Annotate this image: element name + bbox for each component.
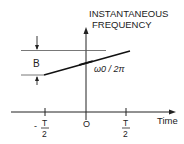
y-axis-label-line2: FREQUENCY	[92, 19, 152, 30]
tick-right-numerator: T	[123, 118, 128, 128]
arrow-down-icon	[35, 45, 39, 50]
bandwidth-label: B	[33, 58, 40, 69]
arrow-up-icon	[35, 76, 39, 81]
x-axis-label: Time	[157, 115, 178, 126]
y-axis-label-line1: INSTANTANEOUS	[89, 8, 168, 19]
tick-left-denominator: 2	[42, 129, 47, 139]
tick-left-numerator: T	[42, 118, 47, 128]
center-frequency-label: ω0 / 2π	[94, 64, 126, 74]
tick-left-sign: -	[34, 121, 37, 131]
chirp-frequency-diagram: INSTANTANEOUS FREQUENCY B ω0 / 2π Time -…	[0, 0, 184, 144]
tick-right-denominator: 2	[123, 129, 128, 139]
time-axis-arrow-icon	[169, 110, 176, 115]
tick-origin: O	[83, 119, 90, 129]
frequency-axis-arrow-icon	[84, 27, 89, 34]
